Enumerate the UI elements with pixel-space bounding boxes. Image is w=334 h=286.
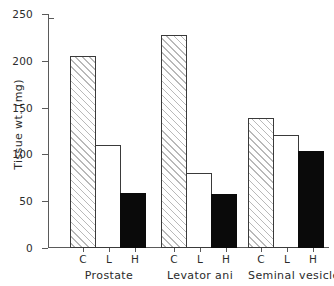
y-axis-line [48, 14, 49, 248]
x-tick-mark [135, 248, 136, 252]
x-tick-mark [174, 248, 175, 252]
bar-prostate-l [95, 145, 121, 248]
x-tick-mark [109, 248, 110, 252]
x-tick-label: C [248, 253, 274, 265]
bars-row [161, 14, 239, 248]
y-tick-mark: 0 [42, 248, 48, 249]
y-tick-label: 200 [12, 55, 33, 67]
y-tick-mark: 250 [42, 14, 48, 15]
x-tick-mark [200, 248, 201, 252]
x-tick-label: C [70, 253, 96, 265]
y-tick-mark: 200 [42, 61, 48, 62]
x-tick-label: H [122, 253, 148, 265]
bar-group: CLHLevator ani [161, 14, 239, 248]
bar-levator-ani-h [211, 194, 237, 248]
x-tick-mark [261, 248, 262, 252]
x-tick-label: L [96, 253, 122, 265]
x-tick-label: H [300, 253, 326, 265]
y-tick-mark: 150 [42, 108, 48, 109]
bar-levator-ani-l [186, 173, 212, 248]
bar-prostate-c [70, 56, 96, 248]
bar-prostate-h [120, 193, 146, 248]
y-tick-label: 0 [26, 242, 33, 254]
y-tick-mark: 50 [42, 201, 48, 202]
bar-chart: Tissue wt. (mg) 050100150200250 CLHProst… [0, 0, 334, 286]
x-tick-label: C [161, 253, 187, 265]
bar-levator-ani-c [161, 35, 187, 248]
x-tick-label: L [187, 253, 213, 265]
group-label: Prostate [70, 269, 148, 282]
bar-seminal-vesicle-h [298, 151, 324, 248]
x-tick-mark [313, 248, 314, 252]
plot-area: 050100150200250 CLHProstateCLHLevator an… [48, 14, 329, 248]
y-tick-label: 50 [19, 195, 33, 207]
x-tick-label: L [274, 253, 300, 265]
bars-row [70, 14, 148, 248]
bar-seminal-vesicle-c [248, 118, 274, 248]
y-axis-label: Tissue wt. (mg) [12, 55, 25, 195]
bar-group: CLHProstate [70, 14, 148, 248]
y-tick-mark-inner [48, 18, 54, 19]
y-tick-mark: 100 [42, 154, 48, 155]
bar-group: CLHSeminal vesicle [248, 14, 326, 248]
group-label: Levator ani [161, 269, 239, 282]
group-label: Seminal vesicle [248, 269, 326, 282]
bars-row [248, 14, 326, 248]
y-tick-label: 250 [12, 8, 33, 20]
x-tick-mark [83, 248, 84, 252]
x-tick-label: H [213, 253, 239, 265]
x-tick-mark [226, 248, 227, 252]
y-tick-label: 150 [12, 102, 33, 114]
bar-seminal-vesicle-l [273, 135, 299, 248]
y-tick-label: 100 [12, 148, 33, 160]
x-tick-mark [287, 248, 288, 252]
